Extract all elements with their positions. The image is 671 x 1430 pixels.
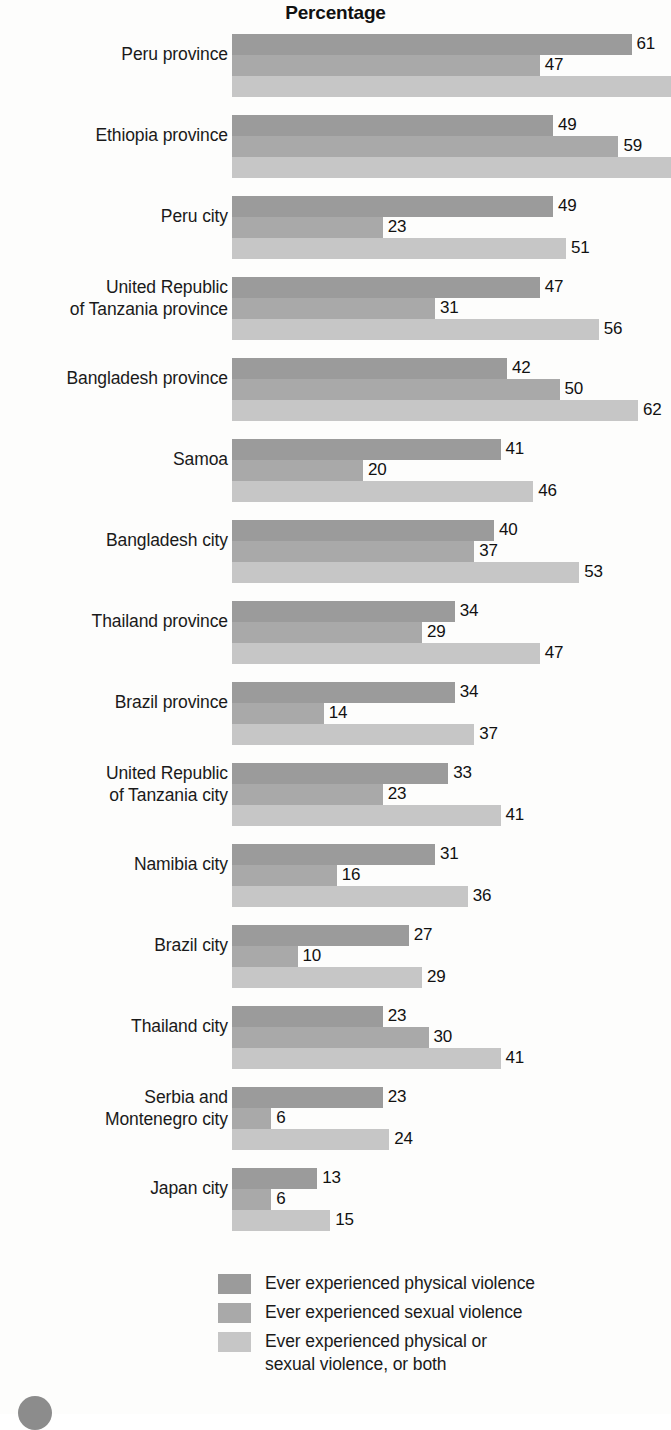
bar-2	[232, 1210, 330, 1231]
bar-value-label: 36	[468, 886, 492, 907]
bar-2	[232, 157, 671, 178]
bar-0	[232, 1006, 383, 1027]
bar-2	[232, 1129, 389, 1150]
bar-group: Samoa412046	[0, 439, 671, 520]
bar-2	[232, 238, 566, 259]
legend-item[interactable]: Ever experienced physical violence	[218, 1272, 658, 1295]
bar-2	[232, 886, 468, 907]
bar-value-label: 14	[324, 703, 348, 724]
bar-group: Namibia city311636	[0, 844, 671, 925]
bar-0	[232, 277, 540, 298]
bar-group-bars: 332341	[232, 763, 671, 826]
bar-group: Bangladesh city403753	[0, 520, 671, 601]
bar-value-label: 53	[579, 562, 603, 583]
bar-group: Brazil city271029	[0, 925, 671, 1006]
bar-group-bars: 425062	[232, 358, 671, 421]
category-label-line: Montenegro city	[2, 1109, 228, 1131]
bar-value-label: 34	[455, 601, 479, 622]
bar-group-bars: 4959	[232, 115, 671, 178]
bar-row: 13	[232, 1168, 671, 1189]
bar-value-label: 37	[474, 541, 498, 562]
category-label: Serbia andMontenegro city	[2, 1087, 228, 1130]
category-label-line: United Republic	[2, 763, 228, 785]
bar-group-bars: 403753	[232, 520, 671, 583]
category-label: Bangladesh city	[2, 530, 228, 552]
bar-0	[232, 358, 507, 379]
bar-group-bars: 473156	[232, 277, 671, 340]
bar-row: 30	[232, 1027, 671, 1048]
bar-group: Thailand city233041	[0, 1006, 671, 1087]
bar-group-bars: 233041	[232, 1006, 671, 1069]
legend-item[interactable]: Ever experienced physical or sexual viol…	[218, 1330, 658, 1376]
bar-1	[232, 136, 618, 157]
bar-row: 37	[232, 541, 671, 562]
category-label-line: Peru city	[2, 206, 228, 228]
bar-row: 40	[232, 520, 671, 541]
bar-1	[232, 946, 298, 967]
bar-row: 36	[232, 886, 671, 907]
bar-value-label: 23	[383, 217, 407, 238]
bar-chart-plot-area: Peru province6147Ethiopia province4959Pe…	[0, 34, 671, 1249]
category-label-line: Samoa	[2, 449, 228, 471]
bar-1	[232, 1189, 271, 1210]
bar-row: 31	[232, 844, 671, 865]
bar-value-label: 34	[455, 682, 479, 703]
legend-label: Ever experienced physical or sexual viol…	[265, 1330, 487, 1376]
bar-row: 23	[232, 217, 671, 238]
legend-label: Ever experienced sexual violence	[265, 1301, 523, 1324]
bar-value-label: 24	[389, 1129, 413, 1150]
bar-row: 49	[232, 196, 671, 217]
category-label: United Republicof Tanzania province	[2, 277, 228, 320]
bar-0	[232, 439, 501, 460]
bar-row: 34	[232, 682, 671, 703]
bar-row: 14	[232, 703, 671, 724]
bar-group-bars: 13615	[232, 1168, 671, 1231]
bar-row: 62	[232, 400, 671, 421]
bar-group: Brazil province341437	[0, 682, 671, 763]
category-label-line: Serbia and	[2, 1087, 228, 1109]
legend-swatch-sexual-icon	[218, 1303, 251, 1323]
bar-row: 15	[232, 1210, 671, 1231]
bar-value-label: 47	[540, 55, 564, 76]
bar-value-label: 51	[566, 238, 590, 259]
category-label-line: Peru province	[2, 44, 228, 66]
bar-value-label: 6	[271, 1189, 285, 1210]
bar-value-label: 46	[533, 481, 557, 502]
category-label: Brazil city	[2, 935, 228, 957]
bar-value-label: 13	[317, 1168, 341, 1189]
bar-value-label: 62	[638, 400, 662, 421]
bar-group: United Republicof Tanzania province47315…	[0, 277, 671, 358]
bar-row: 41	[232, 439, 671, 460]
legend-item[interactable]: Ever experienced sexual violence	[218, 1301, 658, 1324]
bar-value-label: 61	[632, 34, 656, 55]
bar-row: 50	[232, 379, 671, 400]
bar-0	[232, 1087, 383, 1108]
bar-2	[232, 76, 671, 97]
category-label-line: Bangladesh city	[2, 530, 228, 552]
bar-row: 16	[232, 865, 671, 886]
bar-group-bars: 342947	[232, 601, 671, 664]
bar-value-label: 10	[298, 946, 322, 967]
category-label: Namibia city	[2, 854, 228, 876]
bar-row: 41	[232, 805, 671, 826]
bar-row: 61	[232, 34, 671, 55]
bar-1	[232, 379, 560, 400]
bar-row: 6	[232, 1189, 671, 1210]
bar-value-label: 30	[429, 1027, 453, 1048]
bar-0	[232, 682, 455, 703]
bar-value-label: 20	[363, 460, 387, 481]
category-label-line: Japan city	[2, 1178, 228, 1200]
bar-value-label: 50	[560, 379, 584, 400]
category-label: Ethiopia province	[2, 125, 228, 147]
bar-row: 42	[232, 358, 671, 379]
bar-value-label: 47	[540, 277, 564, 298]
bar-2	[232, 643, 540, 664]
bar-group: United Republicof Tanzania city332341	[0, 763, 671, 844]
bar-0	[232, 925, 409, 946]
bar-2	[232, 805, 501, 826]
bar-1	[232, 217, 383, 238]
bar-row: 59	[232, 136, 671, 157]
bar-group: Peru city492351	[0, 196, 671, 277]
bar-row: 10	[232, 946, 671, 967]
